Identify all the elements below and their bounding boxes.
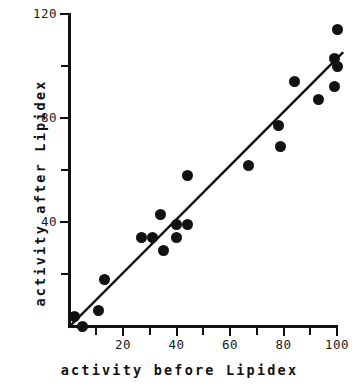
y-tick-major	[60, 13, 68, 15]
data-point	[332, 24, 343, 35]
x-axis-title: activity before Lipidex	[0, 362, 359, 378]
data-point	[93, 305, 104, 316]
data-point	[136, 232, 147, 243]
x-tick-major	[283, 328, 285, 336]
y-tick-label: 120	[13, 6, 57, 21]
x-tick-minor	[149, 328, 151, 335]
data-point	[332, 61, 343, 72]
data-point	[329, 81, 340, 92]
x-tick-minor	[256, 328, 258, 335]
scatter-plot-figure: 4080120 20406080100 activity before Lipi…	[0, 0, 359, 385]
data-point	[182, 219, 193, 230]
data-point	[155, 209, 166, 220]
x-tick-label: 60	[208, 337, 252, 352]
y-tick-minor	[61, 273, 68, 275]
data-point	[273, 120, 284, 131]
data-point	[182, 170, 193, 181]
data-point	[289, 76, 300, 87]
x-tick-label: 40	[155, 337, 199, 352]
data-point	[69, 311, 80, 322]
data-point	[147, 232, 158, 243]
data-point	[77, 321, 88, 332]
x-tick-major	[122, 328, 124, 336]
x-tick-label: 100	[315, 337, 359, 352]
data-point	[171, 219, 182, 230]
data-point	[171, 232, 182, 243]
x-tick-major	[336, 328, 338, 336]
y-tick-minor	[61, 169, 68, 171]
data-point	[275, 141, 286, 152]
y-tick-major	[60, 117, 68, 119]
data-point	[313, 94, 324, 105]
plot-area: 4080120 20406080100 activity before Lipi…	[0, 0, 359, 385]
x-tick-minor	[202, 328, 204, 335]
x-tick-label: 20	[101, 337, 145, 352]
y-axis-title: activity after Lipidex	[32, 48, 48, 338]
x-tick-major	[176, 328, 178, 336]
data-point	[243, 160, 254, 171]
x-tick-minor	[309, 328, 311, 335]
x-tick-minor	[95, 328, 97, 335]
x-tick-major	[229, 328, 231, 336]
x-tick-label: 80	[262, 337, 306, 352]
y-tick-minor	[61, 65, 68, 67]
data-point	[99, 274, 110, 285]
y-tick-major	[60, 221, 68, 223]
y-axis-line	[68, 13, 71, 328]
data-point	[158, 245, 169, 256]
